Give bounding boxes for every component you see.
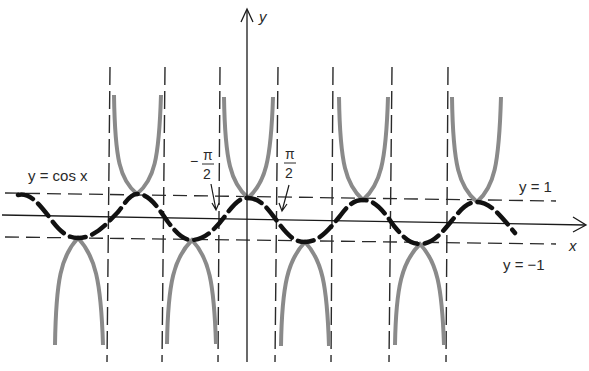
asymptote-line	[107, 67, 110, 362]
sec-branch-down	[55, 238, 103, 345]
sec-branch-down	[281, 242, 329, 346]
y-equals-neg1-label: y = −1	[503, 256, 545, 273]
asymptote-line	[331, 67, 333, 362]
sec-branch-down	[395, 244, 444, 345]
half-pi-arrow-icon	[279, 185, 289, 211]
half-pi-label: π 2	[284, 146, 296, 181]
x-axis	[2, 215, 585, 225]
x-axis-label: x	[568, 237, 577, 254]
pi-numerator: π	[285, 146, 295, 162]
asymptote-line	[446, 67, 448, 362]
y-axis-label: y	[258, 8, 268, 25]
neg-half-pi-label: − π 2	[190, 147, 214, 182]
two-denominator: 2	[285, 165, 293, 181]
sec-branch-up	[452, 97, 501, 202]
cos-curve-label: y = cos x	[28, 167, 88, 184]
neg-half-pi-arrow-icon	[211, 184, 219, 210]
asymptote-line	[218, 67, 220, 362]
sec-branch-up	[224, 97, 273, 198]
sec-cos-graph: y x y = cos x − π 2 π 2 y = 1 y = −1	[0, 0, 589, 371]
minus-sign: −	[190, 153, 198, 169]
y-equals-1-label: y = 1	[519, 178, 552, 195]
y-equals-neg1-line	[5, 237, 556, 244]
pi-numerator: π	[203, 147, 213, 163]
two-denominator: 2	[203, 166, 211, 182]
sec-branch-up	[114, 95, 161, 194]
asymptote-line	[275, 67, 278, 362]
sec-branch-up	[339, 97, 388, 200]
sec-branch-down	[167, 240, 216, 344]
